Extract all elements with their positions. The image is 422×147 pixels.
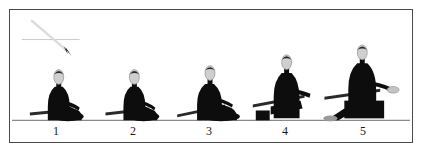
figure-label-5: 5 <box>353 124 373 138</box>
figure-3-lap <box>202 111 240 121</box>
sequence-illustration <box>10 10 412 142</box>
figure-5-thigh <box>344 101 384 119</box>
annotation-blade-line <box>32 21 68 52</box>
figure-4 <box>253 55 311 121</box>
figure-label-4: 4 <box>275 124 295 138</box>
annotation-arrowhead-fill-icon <box>63 46 71 56</box>
figure-label-1: 1 <box>46 124 66 138</box>
figure-1-lap <box>52 111 84 121</box>
sword-arrow-annotation <box>22 21 80 56</box>
illustration-page: ·· ······· ······ ···· <box>0 0 422 147</box>
figure-5-foot <box>323 115 337 121</box>
figure-2-lap <box>127 111 159 121</box>
figure-3 <box>177 66 240 122</box>
figure-4-knee <box>256 110 270 120</box>
figure-label-2: 2 <box>123 124 143 138</box>
figure-1 <box>30 70 84 122</box>
scan-cut-text: ·· ······· ······ ···· <box>0 0 422 5</box>
figure-2 <box>106 70 160 122</box>
figure-5 <box>323 45 399 121</box>
illustration-frame <box>9 9 413 143</box>
figure-label-3: 3 <box>199 124 219 138</box>
figure-5-hand <box>387 86 399 93</box>
